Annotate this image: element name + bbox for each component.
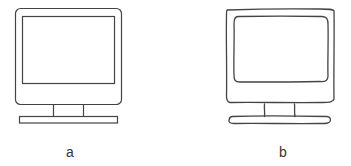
panel-label-a: a — [66, 145, 74, 159]
monitor-b-neck-right — [295, 104, 296, 117]
monitor-a-base — [20, 117, 118, 124]
monitor-b-icon — [226, 9, 334, 124]
monitor-a-icon — [16, 9, 122, 124]
monitor-b-frame — [226, 9, 334, 103]
figure-canvas — [0, 0, 351, 166]
panel-label-b: b — [279, 145, 287, 159]
monitor-b-screen — [234, 16, 328, 82]
monitor-a-screen — [23, 17, 115, 84]
monitor-b-base — [229, 116, 331, 124]
monitor-a-frame — [16, 9, 122, 105]
